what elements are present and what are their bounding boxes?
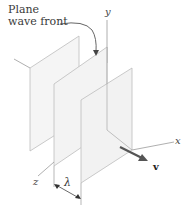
plane-wave-diagram: Plane wave front y x z λ v (0, 0, 190, 212)
x-axis-label: x (175, 136, 181, 146)
z-axis-label: z (33, 177, 38, 187)
wavelength-label: λ (64, 177, 71, 188)
diagram-canvas (0, 0, 190, 212)
title-line-2: wave front (8, 16, 68, 28)
velocity-label: v (153, 162, 159, 172)
z-axis-back (14, 59, 30, 68)
y-axis-label: y (105, 7, 111, 17)
z-axis-front (38, 162, 54, 176)
x-axis (132, 142, 174, 150)
wave-front-label: Plane wave front (8, 4, 68, 28)
